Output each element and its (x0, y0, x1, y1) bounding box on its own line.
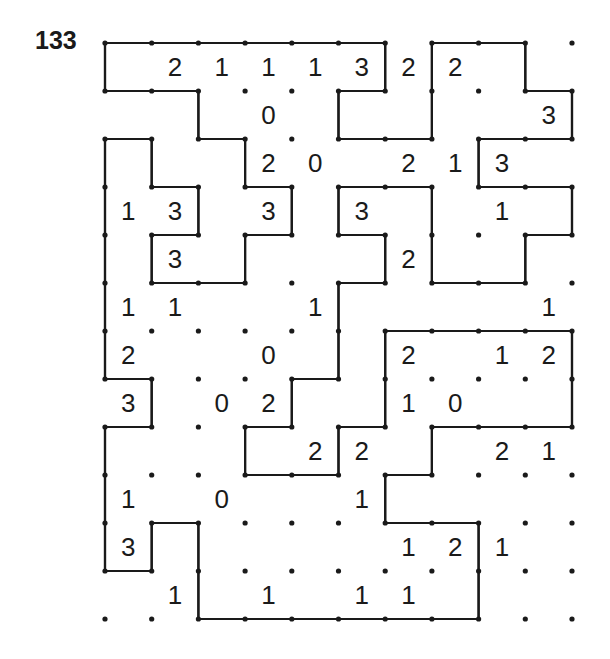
grid-dot (243, 184, 248, 189)
clue-number: 3 (495, 148, 509, 178)
grid-dot (289, 376, 294, 381)
grid-dot (569, 568, 574, 573)
grid-dot (523, 280, 528, 285)
clue-number: 2 (168, 52, 182, 82)
grid-dot (196, 280, 201, 285)
grid-dot (243, 568, 248, 573)
clue-number: 3 (355, 52, 369, 82)
clue-number: 3 (121, 532, 135, 562)
grid-dot (243, 232, 248, 237)
grid-dot (569, 40, 574, 45)
grid-dot (383, 616, 388, 621)
grid-dot (383, 376, 388, 381)
grid-dot (476, 184, 481, 189)
grid-dot (336, 280, 341, 285)
grid-dot (523, 184, 528, 189)
grid-dot (429, 472, 434, 477)
clue-number: 1 (401, 388, 415, 418)
grid-dot (196, 616, 201, 621)
grid-dot (289, 232, 294, 237)
grid-dot (336, 472, 341, 477)
grid-dot (476, 568, 481, 573)
grid-dot (429, 424, 434, 429)
grid-dot (149, 280, 154, 285)
grid-dot (149, 472, 154, 477)
grid-dot (149, 424, 154, 429)
grid-dot (476, 472, 481, 477)
grid-dot (102, 88, 107, 93)
grid-dot (243, 520, 248, 525)
grid-dot (383, 136, 388, 141)
grid-dot (383, 88, 388, 93)
clue-number: 1 (308, 292, 322, 322)
grid-dot (523, 616, 528, 621)
grid-dot (102, 424, 107, 429)
clue-number: 3 (541, 100, 555, 130)
grid-dot (102, 232, 107, 237)
grid-dot (289, 40, 294, 45)
grid-dot (476, 136, 481, 141)
grid-dot (336, 424, 341, 429)
grid-dot (289, 472, 294, 477)
grid-dot (523, 520, 528, 525)
grid-dot (383, 520, 388, 525)
clue-number: 1 (121, 484, 135, 514)
grid-dot (383, 232, 388, 237)
grid-dot (243, 424, 248, 429)
grid-dot (569, 232, 574, 237)
grid-dot (243, 376, 248, 381)
grid-dot (476, 40, 481, 45)
clue-number: 3 (168, 196, 182, 226)
grid-dot (476, 232, 481, 237)
grid-dot (523, 376, 528, 381)
grid-dot (336, 328, 341, 333)
grid-dot (149, 616, 154, 621)
clue-number: 2 (541, 340, 555, 370)
grid-dot (569, 328, 574, 333)
grid-dot (429, 280, 434, 285)
grid-dot (243, 472, 248, 477)
grid-dot (289, 136, 294, 141)
clue-number: 2 (355, 436, 369, 466)
clue-number: 2 (121, 340, 135, 370)
grid-dot (383, 472, 388, 477)
clue-number: 1 (541, 292, 555, 322)
grid-dot (243, 88, 248, 93)
clue-number: 0 (308, 148, 322, 178)
grid-dot (336, 232, 341, 237)
grid-dot (243, 328, 248, 333)
grid-dot (523, 88, 528, 93)
clue-number: 1 (121, 292, 135, 322)
grid-dot (523, 568, 528, 573)
grid-dot (149, 184, 154, 189)
clue-number: 2 (448, 52, 462, 82)
grid-dot (196, 232, 201, 237)
clue-number: 1 (355, 484, 369, 514)
grid-dot (149, 328, 154, 333)
clue-number: 3 (261, 196, 275, 226)
clue-number: 0 (261, 340, 275, 370)
grid-dot (523, 424, 528, 429)
grid-dot (243, 40, 248, 45)
grid-dot (476, 328, 481, 333)
slitherlink-board[interactable]: 2111322032021313331321111202123021022211… (0, 0, 610, 659)
clue-number: 2 (448, 532, 462, 562)
clue-number: 2 (401, 52, 415, 82)
grid-dot (336, 136, 341, 141)
grid-dot (149, 376, 154, 381)
grid-dot (196, 472, 201, 477)
clue-number: 1 (401, 580, 415, 610)
clue-number: 1 (121, 196, 135, 226)
clue-number: 1 (261, 580, 275, 610)
grid-dot (476, 616, 481, 621)
grid-dot (336, 376, 341, 381)
grid-dot (243, 136, 248, 141)
grid-dot (429, 616, 434, 621)
grid-dot (336, 616, 341, 621)
clue-number: 0 (448, 388, 462, 418)
grid-dot (523, 136, 528, 141)
grid-dot (336, 568, 341, 573)
clue-number: 3 (355, 196, 369, 226)
grid-dot (476, 376, 481, 381)
grid-dot (102, 376, 107, 381)
